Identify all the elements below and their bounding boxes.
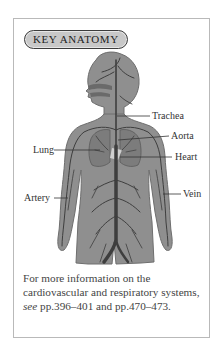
caption-text-before: For more information on the cardiovascul… bbox=[23, 272, 199, 298]
label-heart: Heart bbox=[175, 151, 197, 162]
caption-emphasis: see bbox=[23, 300, 37, 312]
label-artery: Artery bbox=[24, 192, 50, 203]
label-lung: Lung bbox=[33, 144, 54, 155]
label-vein: Vein bbox=[183, 188, 201, 199]
caption-text-after: pp.396–401 and pp.470–473. bbox=[37, 300, 171, 312]
label-aorta: Aorta bbox=[171, 130, 194, 141]
cross-reference-caption: For more information on the cardiovascul… bbox=[23, 272, 208, 313]
label-trachea: Trachea bbox=[152, 110, 184, 121]
